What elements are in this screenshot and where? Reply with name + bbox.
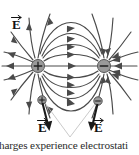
arrowhead-lower-3 (67, 89, 75, 96)
field-line-pos-upleft-3 (29, 18, 35, 58)
arrowhead-lower-1 (67, 74, 75, 81)
figure-caption: harges experience electrostati (0, 137, 139, 155)
field-line-pos-downleft-3 (29, 74, 35, 114)
leader-line-left (45, 103, 70, 137)
arrowhead-axis-mid (68, 63, 76, 70)
test-charge-field-vectors-group (43, 103, 98, 131)
arrowhead-pos-upleft-3 (26, 23, 32, 31)
leader-lines-group (45, 103, 95, 137)
field-line-neg-upright-2 (109, 32, 131, 60)
positive-source-charge (32, 60, 45, 73)
arrowhead-upper-1 (67, 52, 75, 59)
positive-test-charge (38, 96, 46, 104)
field-label-bottom-left: E (38, 118, 48, 135)
field-label-bottom-right: E (94, 118, 104, 135)
figure-page: E E E harges exp (0, 0, 139, 155)
arrowhead-neg-right (114, 63, 122, 70)
field-label-top-left: E (12, 15, 22, 32)
leader-line-right (70, 104, 95, 137)
arrowhead-neg-upright-3 (105, 48, 111, 56)
field-line-neg-downright-2 (109, 72, 131, 100)
arrowhead-neg-downright-3 (105, 76, 111, 84)
arrowhead-upper-3 (67, 36, 75, 43)
negative-test-charge (94, 97, 102, 105)
negative-source-charge (98, 60, 111, 73)
arrowhead-pos-left (6, 63, 14, 70)
arrowhead-upper-4 (67, 26, 75, 33)
electric-dipole-diagram: E E E (0, 0, 139, 139)
arrowhead-pos-downleft-3 (26, 102, 32, 110)
